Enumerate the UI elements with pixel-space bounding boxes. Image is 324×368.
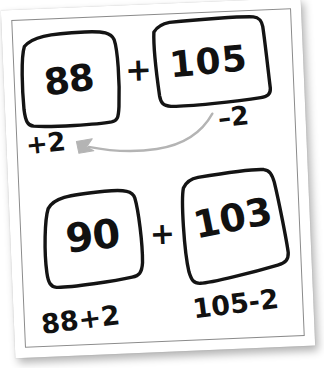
annotation-bottom-right: 105-2 xyxy=(191,283,281,325)
arrow-left-icon xyxy=(76,139,94,154)
value-bottom-right: 103 xyxy=(189,189,275,248)
transfer-arrow-curve xyxy=(87,114,213,153)
annotation-top-right: –2 xyxy=(216,100,250,133)
value-top-right: 105 xyxy=(168,37,250,85)
annotation-top-left: +2 xyxy=(24,126,67,160)
screenshot-canvas: 88 + 105 +2 –2 90 + 103 xyxy=(0,0,324,368)
operator-top: + xyxy=(124,50,152,89)
value-bottom-left: 90 xyxy=(63,210,121,262)
paper-sheet: 88 + 105 +2 –2 90 + 103 xyxy=(1,0,315,358)
annotation-bottom-left: 88+2 xyxy=(39,299,121,340)
operator-bottom: + xyxy=(149,215,176,251)
handwriting-layer: 88 + 105 +2 –2 90 + 103 xyxy=(1,0,315,358)
value-top-left: 88 xyxy=(41,56,96,105)
